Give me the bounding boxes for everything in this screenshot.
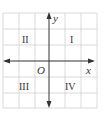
coordinate-plane: y x O I II III IV: [0, 0, 107, 120]
x-axis-left-arrow-icon: [3, 59, 10, 64]
origin-label: O: [37, 64, 45, 76]
y-axis-down-arrow-icon: [47, 101, 52, 108]
quadrant-label-ii: II: [22, 34, 29, 45]
quadrant-label-iv: IV: [65, 81, 76, 92]
quadrant-label-iii: III: [19, 81, 29, 92]
y-axis-label: y: [52, 12, 58, 24]
quadrant-label-i: I: [70, 34, 73, 45]
x-axis-label: x: [85, 64, 91, 76]
x-axis-right-arrow-icon: [88, 59, 95, 64]
